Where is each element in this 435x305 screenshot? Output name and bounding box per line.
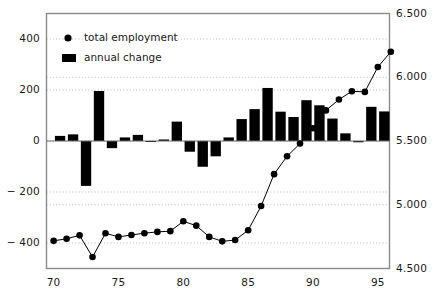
data-point — [167, 228, 174, 235]
data-point — [115, 234, 122, 241]
data-point — [349, 88, 356, 95]
data-point — [258, 203, 265, 210]
legend — [62, 34, 76, 62]
y-axis-left-tick-label: − 400 — [0, 236, 40, 248]
data-point — [89, 254, 96, 261]
bar — [185, 141, 195, 152]
data-point — [141, 230, 148, 237]
x-axis-tick-label: 95 — [358, 276, 398, 288]
data-point — [297, 140, 304, 147]
bar — [55, 136, 65, 141]
y-axis-left-tick-label: − 200 — [0, 185, 40, 197]
bar — [133, 135, 143, 141]
y-axis-right-tick-label: 6.500 — [396, 7, 435, 19]
y-axis-left-tick-label: 400 — [0, 32, 40, 44]
bar — [366, 107, 376, 141]
legend-marker-circle-icon — [64, 34, 71, 41]
y-axis-right-tick-label: 6.000 — [396, 70, 435, 82]
bar — [249, 109, 259, 141]
data-point — [180, 218, 187, 225]
x-axis-tick-label: 85 — [228, 276, 268, 288]
bar — [379, 111, 389, 141]
bar — [94, 91, 104, 141]
x-axis-tick-label: 75 — [99, 276, 139, 288]
data-point — [206, 234, 213, 241]
y-axis-right-tick-label: 4.500 — [396, 262, 435, 274]
data-point — [336, 96, 343, 103]
y-axis-right-tick-label: 5.000 — [396, 198, 435, 210]
bar — [224, 137, 234, 141]
data-point — [232, 237, 239, 244]
data-point — [128, 232, 135, 239]
data-point — [388, 48, 395, 55]
data-point — [63, 235, 70, 242]
chart-canvas — [0, 0, 435, 305]
legend-label: total employment — [84, 31, 178, 43]
data-point — [76, 232, 83, 239]
data-point — [245, 227, 252, 234]
bar — [68, 134, 78, 141]
legend-marker-square-icon — [62, 54, 76, 62]
data-point — [50, 238, 57, 245]
bar — [81, 141, 91, 186]
data-point — [102, 230, 109, 237]
bar — [340, 133, 350, 141]
y-axis-left-tick-label: 0 — [0, 134, 40, 146]
bar — [275, 112, 285, 141]
data-point — [193, 222, 200, 229]
chart-container: 4002000− 200− 4006.5006.0005.5005.0004.5… — [0, 0, 435, 305]
line-series-total-employment — [54, 52, 391, 257]
data-point — [375, 64, 382, 71]
bar — [107, 141, 117, 148]
bar — [198, 141, 208, 167]
data-point — [154, 229, 161, 236]
legend-label: annual change — [84, 51, 162, 63]
bar — [262, 88, 272, 141]
data-point — [310, 125, 317, 132]
bar — [236, 119, 246, 141]
x-axis-tick-label: 90 — [293, 276, 333, 288]
bar — [120, 137, 130, 141]
data-point — [323, 107, 330, 114]
y-axis-right-tick-label: 5.500 — [396, 134, 435, 146]
data-point — [362, 89, 369, 96]
x-axis-tick-label: 80 — [163, 276, 203, 288]
bar — [301, 100, 311, 141]
data-point — [271, 171, 278, 178]
bar — [288, 117, 298, 141]
bar — [211, 141, 221, 156]
data-point — [219, 238, 226, 245]
x-axis-tick-label: 70 — [34, 276, 74, 288]
bar — [327, 119, 337, 141]
line-markers — [50, 48, 394, 260]
bar — [172, 122, 182, 141]
data-point — [284, 153, 291, 160]
y-axis-left-tick-label: 200 — [0, 83, 40, 95]
